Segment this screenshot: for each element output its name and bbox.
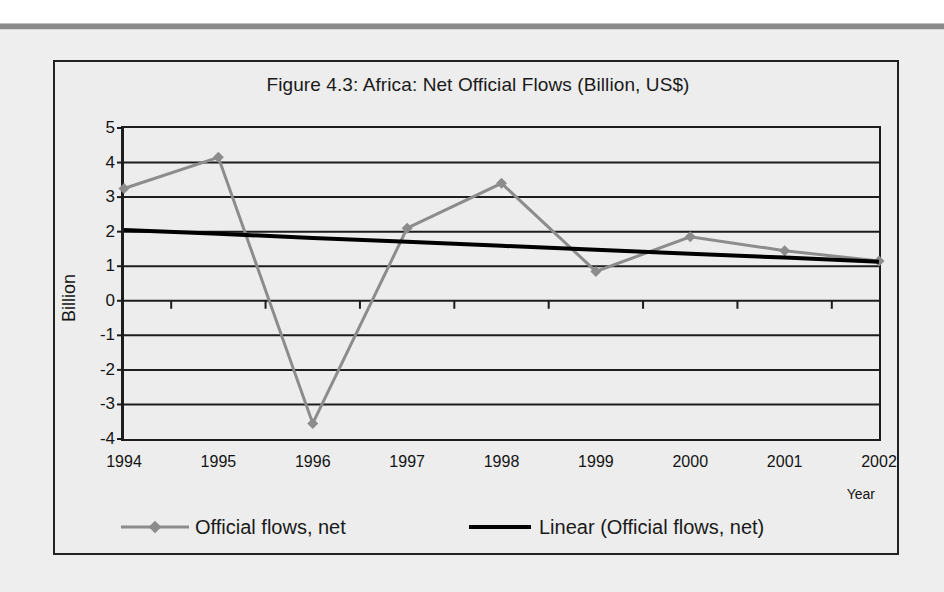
chart-figure: Figure 4.3: Africa: Net Official Flows (… (53, 60, 899, 555)
y-axis-tick-label: 3 (106, 187, 115, 207)
data-point-marker (685, 231, 696, 242)
chart-legend: Official flows, net Linear (Official flo… (55, 510, 901, 550)
y-axis-tick-label: 5 (106, 118, 115, 138)
x-axis-tick-label: 2001 (767, 453, 803, 471)
y-axis-tick-label: 0 (106, 291, 115, 311)
y-axis-tick-label: 1 (106, 256, 115, 276)
plot-area: 543210-1-2-3-4 1994199519961997199819992… (121, 126, 881, 441)
y-axis-tick-label: -4 (100, 429, 115, 449)
data-point-marker (402, 223, 413, 234)
x-axis-tick-label: 1997 (389, 453, 425, 471)
x-axis-tick-label: 1998 (484, 453, 520, 471)
page-top-margin (0, 0, 944, 23)
legend-swatch-series-icon (121, 517, 189, 537)
series-lines (124, 128, 879, 439)
legend-item-official-flows-net: Official flows, net (121, 510, 346, 544)
y-axis-title: Billion (59, 274, 80, 322)
data-point-marker (213, 152, 224, 163)
series-line-1 (124, 230, 879, 262)
legend-label-official-flows-net: Official flows, net (195, 516, 346, 539)
x-axis-tick-label: 1996 (295, 453, 331, 471)
legend-label-linear-trend: Linear (Official flows, net) (539, 516, 764, 539)
data-point-marker (307, 418, 318, 429)
y-axis-tick-label: -1 (100, 325, 115, 345)
x-axis-tick-label: 1999 (578, 453, 614, 471)
y-axis-tick-label: 4 (106, 153, 115, 173)
page-header-rule (0, 23, 944, 30)
data-point-marker (779, 245, 790, 256)
x-axis-tick-label: 1994 (106, 453, 142, 471)
legend-item-linear-trend: Linear (Official flows, net) (465, 510, 764, 544)
x-axis-tick-label: 2002 (861, 453, 897, 471)
x-axis-tick-label: 1995 (201, 453, 237, 471)
x-axis-tick-label: 2000 (672, 453, 708, 471)
y-axis-tick-label: -3 (100, 394, 115, 414)
y-axis-tick-label: -2 (100, 360, 115, 380)
legend-swatch-trendline-icon (465, 517, 533, 537)
series-line-0 (124, 157, 879, 423)
y-axis-tick-label: 2 (106, 222, 115, 242)
chart-title: Figure 4.3: Africa: Net Official Flows (… (55, 74, 901, 96)
data-point-marker (119, 183, 130, 194)
x-axis-title: Year (847, 486, 875, 502)
